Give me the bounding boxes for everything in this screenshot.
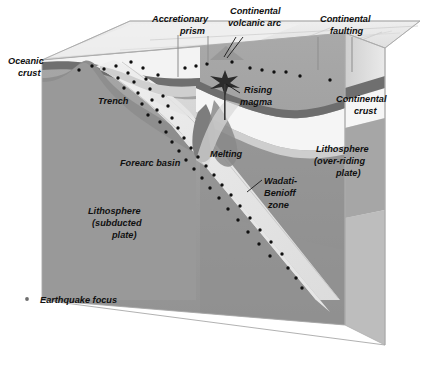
label-continental-crust-line1: Continental <box>336 94 387 104</box>
legend-earthquake-focus-label: Earthquake focus <box>40 295 117 305</box>
label-accretionary-prism-line2: prism <box>179 26 205 36</box>
label-volcanic-arc-line2: volcanic arc <box>228 18 281 28</box>
label-continental-crust-line2: crust <box>354 106 377 116</box>
label-oceanic-crust-line1: Oceanic <box>8 56 44 66</box>
diagram-canvas: Oceanic crust Accretionary prism Contine… <box>0 0 440 370</box>
label-lithosphere-subducted-line2: (subducted <box>92 218 142 228</box>
legend: Earthquake focus <box>25 295 117 305</box>
label-rising-magma-line1: Rising <box>244 85 272 95</box>
label-wadati-benioff-line1: Wadati- <box>264 176 297 186</box>
block-right-face <box>345 33 385 345</box>
label-lithosphere-subducted-line1: Lithosphere <box>88 206 141 216</box>
earthquake-focus-icon <box>25 297 29 301</box>
label-lithosphere-overriding-line3: plate) <box>335 168 361 178</box>
label-trench: Trench <box>98 96 129 106</box>
subduction-zone-diagram: Oceanic crust Accretionary prism Contine… <box>0 0 440 370</box>
label-accretionary-prism-line1: Accretionary <box>151 14 209 24</box>
block-front-face <box>40 30 372 330</box>
label-melting: Melting <box>210 149 243 159</box>
label-continental-faulting-line1: Continental <box>320 14 371 24</box>
label-forearc-basin: Forearc basin <box>120 158 181 168</box>
label-wadati-benioff-line3: zone <box>267 200 289 210</box>
label-rising-magma-line2: magma <box>240 97 272 107</box>
label-lithosphere-subducted-line3: plate) <box>111 230 137 240</box>
label-volcanic-arc-line1: Continental <box>230 6 281 16</box>
label-oceanic-crust-line2: crust <box>18 68 41 78</box>
label-lithosphere-overriding-line1: Lithosphere <box>316 144 369 154</box>
label-lithosphere-overriding-line2: (over-riding <box>314 156 365 166</box>
label-continental-faulting-line2: faulting <box>330 26 364 36</box>
label-wadati-benioff-line2: Benioff <box>264 188 296 198</box>
